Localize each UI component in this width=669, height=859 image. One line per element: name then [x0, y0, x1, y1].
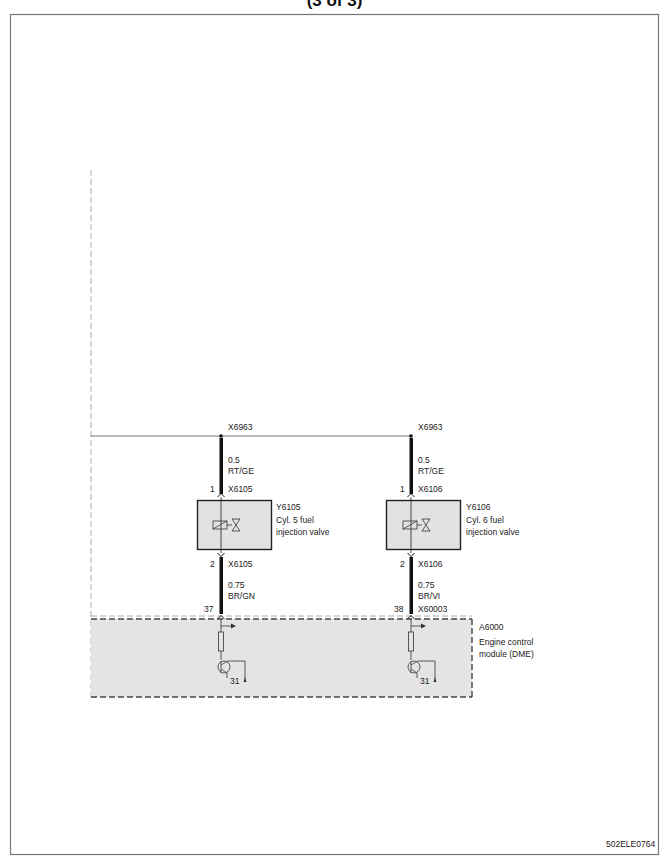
svg-text:31: 31 — [230, 676, 240, 686]
svg-text:BR/GN: BR/GN — [228, 591, 255, 601]
svg-text:2: 2 — [210, 559, 215, 569]
svg-text:module (DME): module (DME) — [479, 649, 534, 659]
svg-text:0.75: 0.75 — [228, 580, 245, 590]
svg-text:Y6105: Y6105 — [276, 502, 301, 512]
svg-text:37: 37 — [204, 604, 214, 614]
svg-text:injection valve: injection valve — [466, 527, 520, 537]
module-desc: Engine control — [479, 637, 533, 647]
svg-text:X6106: X6106 — [418, 559, 443, 569]
svg-text:X60003: X60003 — [418, 604, 448, 614]
dme-module-box — [91, 619, 472, 697]
svg-text:X6106: X6106 — [418, 484, 443, 494]
svg-text:Cyl. 5 fuel: Cyl. 5 fuel — [276, 515, 314, 525]
module-id: A6000 — [479, 622, 504, 632]
injector-box-y6106 — [387, 501, 461, 550]
svg-text:injection valve: injection valve — [276, 527, 330, 537]
svg-text:Cyl. 6 fuel: Cyl. 6 fuel — [466, 515, 504, 525]
svg-text:RT/GE: RT/GE — [228, 466, 254, 476]
svg-text:2: 2 — [400, 559, 405, 569]
svg-text:Y6106: Y6106 — [466, 502, 491, 512]
svg-text:1: 1 — [210, 484, 215, 494]
svg-text:BR/VI: BR/VI — [418, 591, 440, 601]
splice-label: X6963 — [228, 422, 253, 432]
svg-text:0.75: 0.75 — [418, 580, 435, 590]
svg-text:0.5: 0.5 — [228, 455, 240, 465]
wiring-diagram: X6963 0.5 RT/GE 1 X6105 Y6105 Cyl. 5 fue… — [0, 0, 669, 859]
svg-text:1: 1 — [400, 484, 405, 494]
svg-text:38: 38 — [394, 604, 404, 614]
svg-text:RT/GE: RT/GE — [418, 466, 444, 476]
splice-label: X6963 — [418, 422, 443, 432]
svg-text:31: 31 — [420, 676, 430, 686]
svg-text:0.5: 0.5 — [418, 455, 430, 465]
injector-box-y6105 — [198, 501, 272, 550]
svg-text:X6105: X6105 — [228, 484, 253, 494]
page-frame — [11, 15, 659, 855]
figure-id: 502ELE0764 — [606, 839, 655, 849]
svg-text:X6105: X6105 — [228, 559, 253, 569]
